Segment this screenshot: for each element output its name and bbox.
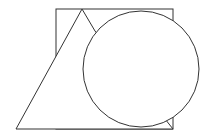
- geometry-diagram: [0, 0, 210, 137]
- circle-shape: [83, 11, 199, 127]
